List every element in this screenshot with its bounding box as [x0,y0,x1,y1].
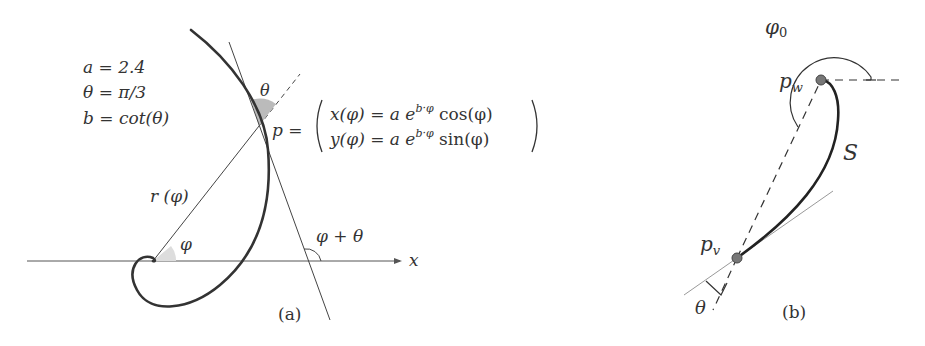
panel-b: φ0 pw pv S θ (b) [684,15,905,322]
spiral-segment-S [737,80,838,258]
label-phi: φ [180,234,192,254]
x-axis-arrow-icon [394,258,402,264]
chord-dashed-line [737,80,821,258]
label-pv: pv [700,232,721,258]
equation-x: x(φ) = a eb·φ cos(φ) [330,102,493,124]
label-theta: θ [260,81,270,100]
right-paren [532,100,537,152]
log-spiral-curve [133,30,269,306]
label-phi0: φ0 [765,15,787,40]
param-b: b = cot(θ) [83,108,169,128]
param-a: a = 2.4 [83,57,145,77]
caption-a: (a) [278,304,301,324]
label-theta-b: θ [695,297,706,318]
point-pw [816,75,826,85]
point-pv [732,253,742,263]
phi-angle-wedge [153,246,176,261]
label-S: S [843,140,858,165]
label-phi-plus-theta: φ + θ [316,226,363,246]
label-pw: pw [779,69,803,95]
caption-b: (b) [782,302,806,322]
panel-a: a = 2.4 θ = π/3 b = cot(θ) θ p = x(φ) = … [27,30,537,324]
theta-angle-mark [706,281,727,295]
label-x-axis: x [409,250,419,270]
param-theta: θ = π/3 [83,82,146,102]
left-paren [317,100,322,152]
figure: a = 2.4 θ = π/3 b = cot(θ) θ p = x(φ) = … [0,0,925,346]
label-p: p = [272,120,303,140]
equation-y: y(φ) = a eb·φ sin(φ) [329,127,489,149]
label-r-phi: r (φ) [150,186,189,206]
tangent-line [229,42,330,320]
